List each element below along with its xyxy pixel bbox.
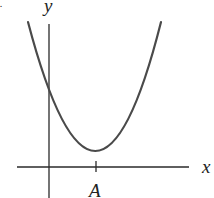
y-axis-label: y bbox=[42, 0, 53, 16]
corner-mark: . bbox=[0, 0, 3, 9]
parabola-curve bbox=[28, 22, 161, 151]
x-axis-label: x bbox=[201, 156, 211, 177]
parabola-diagram: . y x A bbox=[0, 0, 214, 198]
tick-label-A: A bbox=[87, 180, 101, 198]
